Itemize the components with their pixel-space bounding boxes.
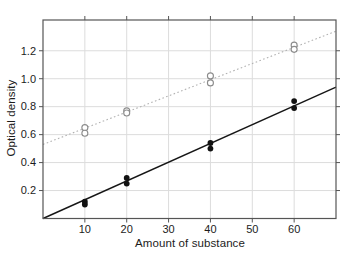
x-axis-title: Amount of substance (135, 237, 245, 249)
y-tick-label: 0.8 (21, 100, 36, 112)
y-tick-label: 0.2 (21, 184, 36, 196)
filled-circle-points-marker (124, 181, 130, 187)
y-tick-label: 1.2 (21, 45, 36, 57)
x-tick-label: 60 (288, 223, 300, 235)
x-tick-label: 50 (246, 223, 258, 235)
chart: 1020304050600.20.40.60.81.01.2 Optical d… (0, 0, 350, 258)
filled-circle-points-marker (291, 105, 297, 111)
filled-circle-points-marker (291, 98, 297, 104)
x-tick-label: 30 (162, 223, 174, 235)
open-circle-points-marker (291, 46, 297, 52)
open-circle-points-marker (207, 73, 213, 79)
y-tick-label: 1.0 (21, 73, 36, 85)
x-tick-label: 20 (121, 223, 133, 235)
x-tick-label: 40 (204, 223, 216, 235)
filled-circle-points-marker (124, 175, 130, 181)
filled-circle-points-marker (208, 140, 214, 146)
y-tick-label: 0.4 (21, 156, 36, 168)
open-circle-points-marker (82, 130, 88, 136)
open-circle-points-marker (207, 80, 213, 86)
y-tick-label: 0.6 (21, 128, 36, 140)
filled-circle-points-marker (208, 146, 214, 152)
filled-circle-points-marker (82, 202, 88, 208)
y-axis-title: Optical density (5, 80, 17, 157)
x-tick-label: 10 (79, 223, 91, 235)
open-circle-points-marker (124, 110, 130, 116)
chart-canvas: 1020304050600.20.40.60.81.01.2 (0, 0, 350, 258)
